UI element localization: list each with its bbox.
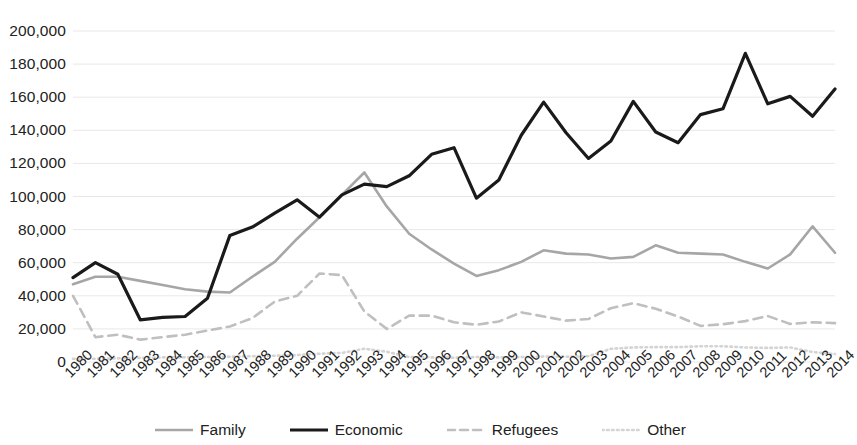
legend-label-other: Other [647,422,686,438]
y-tick-label: 120,000 [4,155,66,171]
legend-item-other[interactable]: Other [602,422,686,438]
y-axis: 200,000180,000160,000140,000120,000100,0… [0,0,66,380]
chart-legend: FamilyEconomicRefugeesOther [0,417,841,443]
series-line-family [73,173,835,293]
y-tick-label: 60,000 [4,255,66,271]
data-series-group [73,53,835,358]
series-line-economic [73,53,835,319]
y-tick-label: 200,000 [4,23,66,39]
legend-item-refugees[interactable]: Refugees [447,422,558,438]
y-tick-label: 140,000 [4,122,66,138]
y-tick-label: 80,000 [4,222,66,238]
legend-swatch-other [602,424,640,436]
legend-label-economic: Economic [335,422,403,438]
legend-swatch-family [155,424,193,436]
gridlines [73,31,835,362]
legend-item-family[interactable]: Family [155,422,246,438]
legend-label-refugees: Refugees [492,422,558,438]
y-tick-label: 100,000 [4,189,66,205]
legend-label-family: Family [200,422,246,438]
y-tick-label: 20,000 [4,321,66,337]
y-tick-label: 160,000 [4,89,66,105]
legend-swatch-economic [290,424,328,436]
y-tick-label: 40,000 [4,288,66,304]
y-tick-label: 180,000 [4,56,66,72]
y-tick-label: 0 [4,354,66,370]
legend-swatch-refugees [447,424,485,436]
series-line-other [73,346,835,358]
legend-item-economic[interactable]: Economic [290,422,403,438]
series-line-refugees [73,273,835,339]
